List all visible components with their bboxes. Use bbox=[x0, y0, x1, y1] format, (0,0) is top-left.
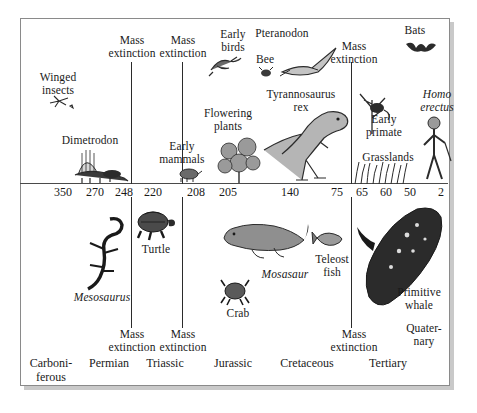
bats: Bats bbox=[399, 24, 431, 37]
permian-triassic-boundary-lower bbox=[131, 197, 132, 328]
mosasaur: Mosasaur bbox=[255, 268, 315, 281]
axis-tick-350: 350 bbox=[47, 186, 79, 199]
axis-tick-205: 205 bbox=[212, 186, 244, 199]
teleost-fish: Teleost fish bbox=[310, 253, 354, 278]
winged-insects: Winged insects bbox=[26, 71, 90, 96]
bee: Bee bbox=[251, 53, 279, 66]
homo-erectus-illustration bbox=[418, 115, 452, 183]
early-mammals: Early mammals bbox=[152, 140, 212, 165]
mass-extinction-208-lower: Mass extinction bbox=[151, 328, 215, 353]
axis-tick-248: 248 bbox=[108, 186, 140, 199]
flowering-plant-illustration bbox=[215, 133, 263, 183]
grasslands-illustration bbox=[352, 160, 412, 184]
axis-tick-208: 208 bbox=[180, 186, 212, 199]
period-triassic: Triassic bbox=[140, 357, 190, 371]
turtle-illustration bbox=[133, 206, 177, 241]
teleost-fish-illustration bbox=[314, 229, 344, 247]
mosasaur-illustration bbox=[222, 212, 310, 262]
grasslands: Grasslands bbox=[355, 151, 421, 164]
quaternary: Quater- nary bbox=[399, 322, 449, 347]
geologic-timeline-figure: Winged insectsMass extinctionMass extinc… bbox=[0, 0, 477, 413]
primitive-whale: Primitive whale bbox=[389, 286, 449, 311]
mass-extinction-65-lower: Mass extinction bbox=[322, 328, 386, 353]
bee-illustration bbox=[258, 66, 274, 78]
bat-illustration bbox=[404, 38, 438, 58]
dimetrodon-illustration bbox=[72, 145, 130, 183]
dimetrodon: Dimetrodon bbox=[55, 134, 125, 147]
triassic-jurassic-boundary-lower bbox=[182, 197, 183, 328]
early-mammal-illustration bbox=[176, 165, 202, 183]
pteranodon: Pteranodon bbox=[249, 27, 315, 40]
axis-tick-2: 2 bbox=[425, 186, 457, 199]
crab: Crab bbox=[222, 307, 254, 320]
winged-insect-illustration bbox=[48, 94, 74, 110]
crab-illustration bbox=[221, 277, 249, 305]
turtle: Turtle bbox=[135, 243, 177, 256]
mass-extinction-208: Mass extinction bbox=[151, 34, 215, 59]
axis-tick-270: 270 bbox=[79, 186, 111, 199]
axis-tick-50: 50 bbox=[394, 186, 426, 199]
period-jurassic: Jurassic bbox=[207, 357, 259, 371]
permian-triassic-boundary bbox=[131, 62, 132, 184]
mesosaurus-illustration bbox=[80, 215, 130, 290]
homo-erectus: Homo erectus bbox=[412, 88, 462, 113]
tyrannosaurus-rex: Tyrannosaurus rex bbox=[259, 88, 343, 113]
flowering-plants: Flowering plants bbox=[196, 107, 260, 132]
axis-tick-140: 140 bbox=[274, 186, 306, 199]
period-carboniferous: Carboni- ferous bbox=[22, 357, 80, 384]
period-cretaceous: Cretaceous bbox=[272, 357, 342, 371]
mesosaurus: Mesosaurus bbox=[66, 291, 138, 304]
period-permian: Permian bbox=[83, 357, 135, 371]
axis-tick-220: 220 bbox=[137, 186, 169, 199]
mass-extinction-65: Mass extinction bbox=[322, 40, 386, 65]
early-primate: Early primate bbox=[358, 113, 410, 138]
period-tertiary: Tertiary bbox=[363, 357, 413, 371]
